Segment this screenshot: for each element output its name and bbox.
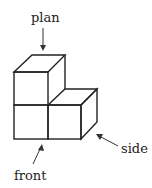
top-face-upper-cube	[14, 55, 65, 72]
front-label: front	[14, 168, 47, 183]
block-diagram: plan side front	[0, 0, 152, 188]
front-face-right-cube	[48, 105, 81, 139]
front-face-lower-left-cube	[14, 105, 48, 139]
side-face-right-cube	[81, 89, 97, 139]
side-arrow	[96, 134, 118, 146]
plan-arrow	[40, 28, 46, 51]
plan-label: plan	[31, 10, 60, 25]
side-label: side	[121, 141, 148, 156]
front-arrow	[33, 144, 44, 164]
l-shaped-block	[14, 55, 97, 139]
front-face-upper-cube	[14, 72, 48, 105]
